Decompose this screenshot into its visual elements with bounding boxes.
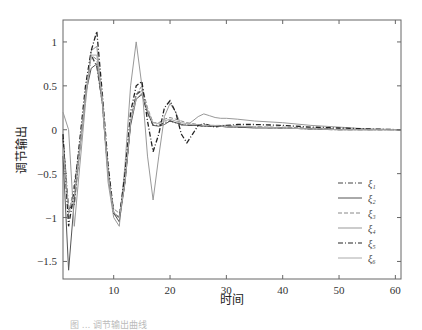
series-line-1 xyxy=(63,55,401,217)
legend-label: ξ₃ xyxy=(368,208,376,220)
legend: ξ₁ξ₂ξ₃ξ₄ξ₅ξ₆ xyxy=(338,178,376,265)
series-line-4 xyxy=(63,42,401,226)
legend-label: ξ₂ xyxy=(368,193,376,205)
series-line-5 xyxy=(63,31,401,226)
x-tick-label: 50 xyxy=(334,284,346,296)
x-axis-title: 时间 xyxy=(220,293,244,307)
x-tick-label: 10 xyxy=(108,284,120,296)
y-axis-title: 调节输出 xyxy=(14,126,29,174)
plot-frame xyxy=(63,20,401,279)
series-line-3 xyxy=(63,55,401,217)
y-tick-label: 1 xyxy=(52,36,58,48)
y-tick-label: 0.5 xyxy=(43,80,57,92)
x-tick-label: 60 xyxy=(390,284,402,296)
legend-label: ξ₅ xyxy=(368,238,376,250)
legend-label: ξ₄ xyxy=(368,223,376,235)
legend-label: ξ₁ xyxy=(368,178,376,190)
y-tick-label: −0.5 xyxy=(37,168,57,180)
x-tick-label: 20 xyxy=(165,284,177,296)
series-line-6 xyxy=(63,55,401,217)
line-chart: 102030405060−1.5−1−0.500.51 时间 调节输出 ξ₁ξ₂… xyxy=(0,0,422,330)
series-line-2 xyxy=(63,64,401,270)
figure-caption: 图 ... 调节输出曲线 xyxy=(70,318,147,330)
y-tick-label: −1 xyxy=(45,212,57,224)
y-tick-label: 0 xyxy=(52,124,58,136)
y-tick-label: −1.5 xyxy=(37,255,57,267)
legend-label: ξ₆ xyxy=(368,253,376,265)
axis-ticks: 102030405060−1.5−1−0.500.51 xyxy=(37,20,401,296)
series-layer xyxy=(63,31,401,270)
x-tick-label: 40 xyxy=(277,284,289,296)
